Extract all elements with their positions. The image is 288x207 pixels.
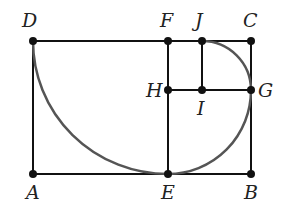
point-c bbox=[247, 37, 255, 45]
point-j bbox=[198, 37, 206, 45]
points-group bbox=[29, 37, 255, 178]
label-f: F bbox=[159, 9, 174, 31]
label-b: B bbox=[243, 181, 258, 203]
point-a bbox=[29, 170, 37, 178]
point-d bbox=[29, 37, 37, 45]
point-e bbox=[164, 170, 172, 178]
point-b bbox=[247, 170, 255, 178]
outer-rectangle bbox=[33, 41, 251, 174]
point-g bbox=[247, 86, 255, 94]
point-h bbox=[164, 86, 172, 94]
label-c: C bbox=[243, 9, 258, 31]
label-i: I bbox=[196, 97, 205, 119]
label-h: H bbox=[145, 79, 163, 101]
label-j: J bbox=[191, 9, 204, 31]
spiral-arc bbox=[33, 41, 251, 174]
point-i bbox=[198, 86, 206, 94]
label-a: A bbox=[24, 181, 40, 203]
label-g: G bbox=[258, 79, 273, 101]
label-e: E bbox=[160, 181, 175, 203]
golden-rectangle-diagram: DFJCHIGAEB bbox=[0, 0, 288, 207]
label-d: D bbox=[21, 9, 37, 31]
point-f bbox=[164, 37, 172, 45]
